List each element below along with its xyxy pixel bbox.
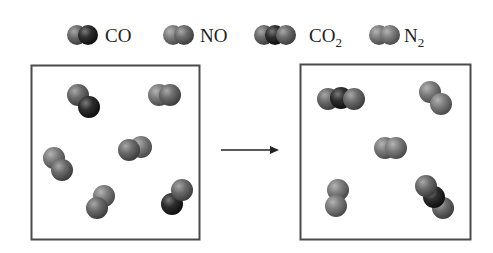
legend-label-co2: CO2	[309, 25, 342, 50]
nitrogen-atom	[430, 93, 452, 115]
co-molecule-icon	[67, 25, 98, 45]
product-molecule-co2	[317, 87, 365, 110]
legend-label-n2: N2	[404, 25, 424, 50]
legend-label-no: NO	[200, 25, 227, 46]
oxygen-atom	[415, 175, 437, 197]
oxygen-atom	[86, 197, 108, 219]
reactant-molecule-no	[148, 84, 181, 106]
product-molecule-n2	[374, 137, 407, 159]
legend-item-no: NO	[163, 25, 227, 46]
legend: CO NO CO2 N2	[67, 25, 424, 50]
co2-molecule-icon	[254, 25, 296, 45]
oxygen-atom	[51, 159, 73, 181]
product-molecule-n2	[325, 179, 349, 217]
nitrogen-atom	[385, 137, 407, 159]
legend-item-co2: CO2	[254, 25, 342, 50]
reactants-box	[32, 66, 200, 240]
legend-label-co: CO	[105, 25, 131, 46]
oxygen-atom	[174, 25, 194, 45]
oxygen-atom	[343, 88, 365, 110]
oxygen-atom	[171, 179, 193, 201]
oxygen-atom	[276, 25, 296, 45]
oxygen-atom	[159, 84, 181, 106]
nitrogen-atom	[325, 195, 347, 217]
oxygen-atom	[118, 139, 140, 161]
arrow-head-icon	[270, 146, 279, 154]
carbon-atom	[78, 96, 100, 118]
legend-item-co: CO	[67, 25, 131, 46]
reaction-diagram: CO NO CO2 N2	[0, 0, 493, 253]
reaction-arrow	[221, 146, 279, 154]
nitrogen-atom	[380, 25, 400, 45]
products-box	[301, 65, 471, 240]
carbon-atom	[78, 25, 98, 45]
n2-molecule-icon	[369, 25, 400, 45]
no-molecule-icon	[163, 25, 194, 45]
legend-item-n2: N2	[369, 25, 424, 50]
